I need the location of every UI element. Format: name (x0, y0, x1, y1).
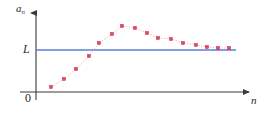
axes (20, 13, 249, 100)
data-point (98, 42, 101, 45)
connector-polyline (51, 26, 229, 87)
data-point (217, 47, 220, 50)
sequence-convergence-figure: an L 0 n (0, 0, 267, 114)
data-point (206, 46, 209, 49)
data-point (121, 25, 124, 28)
data-connector-dotted (51, 26, 229, 87)
data-point (182, 42, 185, 45)
data-points (50, 25, 231, 89)
y-axis-label: an (16, 3, 25, 15)
y-axis-label-subscript: n (22, 8, 25, 15)
limit-label: L (23, 43, 30, 55)
data-point (228, 47, 231, 50)
data-point (111, 33, 114, 36)
x-axis-label: n (251, 95, 257, 106)
data-point (88, 55, 91, 58)
data-point (170, 38, 173, 41)
origin-label: 0 (25, 92, 31, 104)
data-point (146, 32, 149, 35)
data-point (63, 78, 66, 81)
data-point (75, 68, 78, 71)
data-point (134, 27, 137, 30)
data-point (195, 44, 198, 47)
data-point (157, 37, 160, 40)
data-point (50, 86, 53, 89)
plot-canvas (0, 0, 267, 114)
